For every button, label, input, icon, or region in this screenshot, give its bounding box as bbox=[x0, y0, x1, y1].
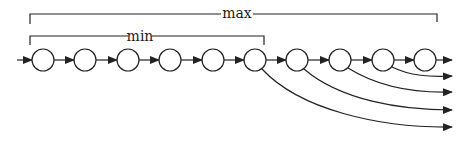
min-label: min bbox=[127, 28, 154, 44]
exit-arrow-8 bbox=[348, 68, 452, 92]
node-2 bbox=[74, 49, 96, 71]
node-4 bbox=[159, 49, 181, 71]
node-3 bbox=[117, 49, 139, 71]
exit-curves bbox=[262, 67, 452, 127]
node-7 bbox=[286, 49, 308, 71]
node-6 bbox=[244, 49, 266, 71]
node-5 bbox=[202, 49, 224, 71]
node-9 bbox=[372, 49, 394, 71]
max-bracket: max bbox=[30, 5, 437, 24]
min-bracket: min bbox=[30, 28, 264, 45]
node-8 bbox=[329, 49, 351, 71]
node-1 bbox=[32, 49, 54, 71]
exit-arrow-6 bbox=[262, 69, 452, 127]
repetition-diagram: max min bbox=[0, 0, 468, 142]
exit-arrow-7 bbox=[304, 69, 452, 110]
node-10 bbox=[414, 49, 436, 71]
max-label: max bbox=[222, 5, 252, 21]
